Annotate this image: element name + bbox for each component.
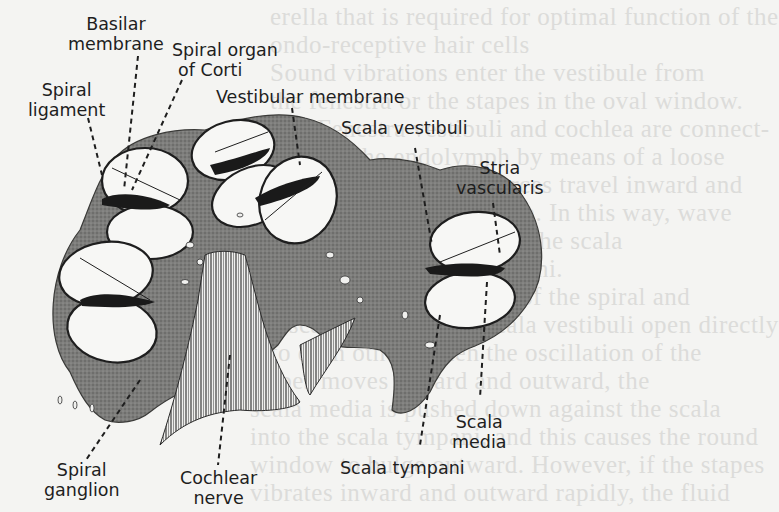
label-basilar-membrane: Basilar membrane [68, 14, 164, 54]
label-spiral-organ-of-corti: Spiral organ of Corti [172, 40, 278, 80]
label-vestibular-membrane: Vestibular membrane [216, 87, 405, 107]
leader-spiral-ligament [88, 118, 102, 175]
label-stria-vascularis: Stria vascularis [456, 158, 544, 198]
label-spiral-ganglion: Spiral ganglion [44, 460, 120, 500]
label-spiral-ligament: Spiral ligament [28, 80, 105, 120]
label-scala-tympani: Scala tympani [340, 458, 465, 478]
label-cochlear-nerve: Cochlear nerve [180, 468, 257, 508]
label-scala-media: Scala media [452, 412, 507, 452]
label-scala-vestibuli: Scala vestibuli [341, 118, 468, 138]
